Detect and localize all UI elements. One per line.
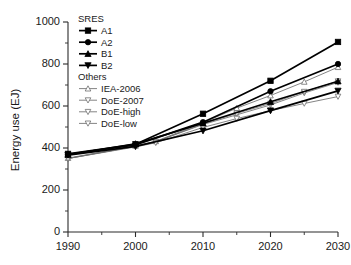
legend-item-a1[interactable]: A1 xyxy=(79,25,113,36)
legend-label: A2 xyxy=(101,37,113,48)
y-tick-label: 800 xyxy=(42,57,60,69)
chart-container: 0200400600800100019902000201020202030 SR… xyxy=(0,0,351,265)
x-tick-label: 2010 xyxy=(191,240,215,252)
legend-group-title-sres: SRES xyxy=(78,13,104,24)
x-tick-label: 2000 xyxy=(123,240,147,252)
chart-legend: SRESA1A2B1B2OthersIEA-2006DoE-2007DoE-hi… xyxy=(78,13,144,129)
x-tick-label: 2030 xyxy=(326,240,350,252)
legend-label: B1 xyxy=(101,48,113,59)
legend-label: DoE-2007 xyxy=(101,95,144,106)
legend-label: DoE-high xyxy=(101,106,141,117)
legend-item-a2[interactable]: A2 xyxy=(79,37,113,48)
legend-item-doe-2007[interactable]: DoE-2007 xyxy=(79,95,144,106)
legend-item-doe-low[interactable]: DoE-low xyxy=(79,118,137,129)
x-tick-label: 2020 xyxy=(258,240,282,252)
legend-label: IEA-2006 xyxy=(101,83,141,94)
legend-label: B2 xyxy=(101,60,113,71)
legend-item-iea-2006[interactable]: IEA-2006 xyxy=(79,83,141,94)
legend-group-title-others: Others xyxy=(78,71,107,82)
y-tick-label: 400 xyxy=(42,141,60,153)
y-tick-label: 200 xyxy=(42,183,60,195)
legend-item-b1[interactable]: B1 xyxy=(79,48,113,59)
legend-label: A1 xyxy=(101,25,113,36)
y-tick-label: 1000 xyxy=(36,15,60,27)
y-tick-label: 0 xyxy=(54,225,60,237)
energy-use-line-chart: 0200400600800100019902000201020202030 SR… xyxy=(0,0,351,265)
legend-item-doe-high[interactable]: DoE-high xyxy=(79,106,141,117)
y-axis-title: Energy use (EJ) xyxy=(9,89,21,172)
legend-item-b2[interactable]: B2 xyxy=(79,60,113,71)
x-tick-label: 1990 xyxy=(56,240,80,252)
legend-label: DoE-low xyxy=(101,118,137,129)
y-tick-label: 600 xyxy=(42,99,60,111)
